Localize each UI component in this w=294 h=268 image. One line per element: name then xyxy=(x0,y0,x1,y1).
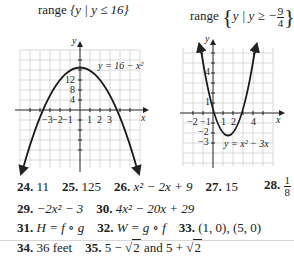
answer-value: 11 xyxy=(37,179,50,194)
y-tick-1: 1 xyxy=(205,96,210,107)
answer-value: 4x² − 20x + 29 xyxy=(116,201,194,216)
right-graph xyxy=(180,42,282,168)
answer-value: −2x² − 3 xyxy=(37,201,84,216)
x-tick-2: 2 xyxy=(231,116,236,127)
answer-number: 31. xyxy=(17,220,33,235)
answer-number: 33. xyxy=(179,220,195,235)
y-axis-label: y xyxy=(205,33,209,44)
square-root: √2 xyxy=(186,240,202,256)
x-axis-label: x xyxy=(141,112,145,123)
answer-value: x² − 2x + 9 xyxy=(134,179,193,194)
answer-row-3: 31. H = f ∘ g 32. W = g ∘ f 33. (1, 0), … xyxy=(17,220,261,236)
x-tick-1: 1 xyxy=(221,116,226,127)
answer-number: 34. xyxy=(17,240,33,255)
equation-label: y = 16 − x² xyxy=(98,60,143,71)
answer-value: 36 feet xyxy=(37,240,73,255)
y-tick-4: 4 xyxy=(70,94,75,105)
x-tick-3: 3 xyxy=(107,114,112,125)
fraction: 18 xyxy=(284,175,292,198)
answer-number: 32. xyxy=(97,220,113,235)
x-tick-4: 4 xyxy=(251,116,256,127)
answer-number: 25. xyxy=(62,179,78,194)
answer-number: 35. xyxy=(85,240,101,255)
answer-value: W = g ∘ f xyxy=(117,220,166,235)
answer-value: (1, 0), (5, 0) xyxy=(198,220,261,235)
answer-value: 125 xyxy=(82,179,102,194)
x-tick-2: 2 xyxy=(97,114,102,125)
answer-number: 27. xyxy=(206,179,222,194)
answer-row-4: 34. 36 feet 35. 5 − √2 and 5 + √2 xyxy=(17,240,202,256)
answer-row-1: 24. 11 25. 125 26. x² − 2x + 9 27. 15 xyxy=(17,179,238,195)
x-tick-1: 1 xyxy=(87,114,92,125)
answer-number: 30. xyxy=(96,201,112,216)
y-tick-4: 4 xyxy=(205,66,210,77)
answer-value: H = f ∘ g xyxy=(37,220,85,235)
y-axis-label: y xyxy=(72,35,76,46)
answer-number: 29. xyxy=(17,201,33,216)
answer-row-2: 29. −2x² − 3 30. 4x² − 20x + 29 xyxy=(17,201,194,217)
x-tick-neg2: −2 xyxy=(187,116,198,127)
answer-28: 28. 18 xyxy=(264,175,291,198)
equation-label: y = x² − 3x xyxy=(224,138,269,149)
answer-number: 24. xyxy=(17,179,33,194)
answer-value: 15 xyxy=(225,179,238,194)
answer-number: 28. xyxy=(264,177,280,192)
square-root: √2 xyxy=(125,240,141,256)
x-tick-neg1: −1 xyxy=(62,114,73,125)
answer-value: 5 − xyxy=(105,240,125,255)
x-tick-neg1: −1 xyxy=(200,116,211,127)
y-tick-neg3: −3 xyxy=(198,136,209,147)
x-axis-label: x xyxy=(276,114,280,125)
answer-number: 26. xyxy=(114,179,130,194)
